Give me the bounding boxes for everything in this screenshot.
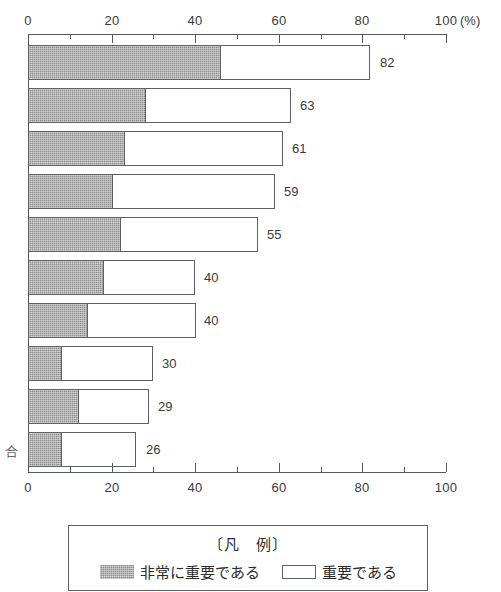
top-axis-minor-tick	[70, 34, 71, 39]
bar-row: 61	[0, 131, 501, 166]
top-axis-major-tick	[279, 34, 280, 43]
bar-value-label: 82	[380, 55, 394, 70]
bar-segment-important	[87, 303, 196, 338]
bottom-axis-major-tick	[446, 463, 447, 472]
bar-segment-important	[112, 174, 275, 209]
bar-segment-very-important	[28, 260, 103, 295]
bar-segment-important	[120, 217, 258, 252]
bar-segment-important	[145, 88, 291, 123]
top-axis-major-tick	[446, 34, 447, 43]
bottom-axis-tick-label: 20	[105, 480, 120, 495]
bar-row: 40	[0, 260, 501, 295]
top-axis-minor-tick	[404, 34, 405, 39]
bar-row: 82	[0, 45, 501, 80]
top-axis-tick-label: 80	[355, 13, 370, 28]
bar-segment-very-important	[28, 88, 145, 123]
legend-entry: 非常に重要である	[100, 561, 260, 582]
bottom-axis-minor-tick	[153, 467, 154, 472]
bar-segment-important	[78, 389, 149, 424]
legend-box: 〔凡 例〕 非常に重要である重要である	[68, 525, 428, 591]
legend-entries: 非常に重要である重要である	[69, 561, 427, 582]
legend-entry: 重要である	[282, 561, 397, 582]
bar-row: 26合	[0, 432, 501, 467]
bar-segment-very-important	[28, 45, 220, 80]
bar-segment-important	[103, 260, 195, 295]
top-axis-major-tick	[112, 34, 113, 43]
category-label: 合	[0, 441, 18, 460]
bar-segment-very-important	[28, 217, 120, 252]
bottom-axis-tick-label: 0	[24, 480, 31, 495]
top-axis-tick-label: 60	[272, 13, 287, 28]
bar-segment-very-important	[28, 346, 61, 381]
bottom-axis-line	[28, 472, 446, 473]
axis-unit-label: (%)	[460, 13, 480, 28]
stacked-bar-chart: 020406080100(%) 82636159554040302926合 02…	[0, 0, 501, 592]
bar-row: 30	[0, 346, 501, 381]
bar-segment-important	[220, 45, 370, 80]
bottom-axis-major-tick	[195, 463, 196, 472]
bar-row: 55	[0, 217, 501, 252]
bar-segment-very-important	[28, 303, 87, 338]
bar-row: 63	[0, 88, 501, 123]
bottom-axis-major-tick	[279, 463, 280, 472]
bottom-axis-tick-label: 100	[435, 480, 457, 495]
bar-value-label: 26	[146, 442, 160, 457]
bar-segment-important	[124, 131, 283, 166]
top-axis-tick-label: 40	[188, 13, 203, 28]
top-axis-tick-label: 100	[435, 13, 457, 28]
bar-segment-important	[61, 346, 153, 381]
legend-swatch-important-icon	[282, 565, 316, 579]
bar-value-label: 61	[292, 141, 306, 156]
bottom-axis-tick-label: 40	[188, 480, 203, 495]
top-axis-minor-tick	[153, 34, 154, 39]
legend-title: 〔凡 例〕	[69, 533, 427, 554]
bar-value-label: 30	[162, 356, 176, 371]
bar-value-label: 63	[300, 98, 314, 113]
bottom-axis-major-tick	[362, 463, 363, 472]
top-axis-tick-label: 0	[24, 13, 31, 28]
top-axis-minor-tick	[321, 34, 322, 39]
bar-value-label: 29	[158, 399, 172, 414]
bar-row: 29	[0, 389, 501, 424]
bottom-axis-minor-tick	[321, 467, 322, 472]
bar-row: 40	[0, 303, 501, 338]
bar-value-label: 40	[204, 313, 218, 328]
bar-row: 59	[0, 174, 501, 209]
bar-value-label: 59	[284, 184, 298, 199]
bottom-axis-minor-tick	[404, 467, 405, 472]
bar-segment-very-important	[28, 174, 112, 209]
bottom-axis-major-tick	[112, 463, 113, 472]
top-axis-major-tick	[362, 34, 363, 43]
bar-segment-very-important	[28, 432, 61, 467]
top-axis-major-tick	[195, 34, 196, 43]
bottom-axis-tick-label: 80	[355, 480, 370, 495]
legend-swatch-very-important-icon	[100, 565, 134, 579]
top-axis-minor-tick	[237, 34, 238, 39]
legend-label: 重要である	[322, 561, 397, 582]
legend-label: 非常に重要である	[140, 561, 260, 582]
top-axis-tick-label: 20	[105, 13, 120, 28]
bottom-axis-minor-tick	[237, 467, 238, 472]
bottom-axis-major-tick	[28, 463, 29, 472]
bar-value-label: 55	[267, 227, 281, 242]
bottom-axis-tick-label: 60	[272, 480, 287, 495]
bar-segment-important	[61, 432, 136, 467]
bar-segment-very-important	[28, 389, 78, 424]
bar-segment-very-important	[28, 131, 124, 166]
bottom-axis-minor-tick	[70, 467, 71, 472]
bar-value-label: 40	[204, 270, 218, 285]
